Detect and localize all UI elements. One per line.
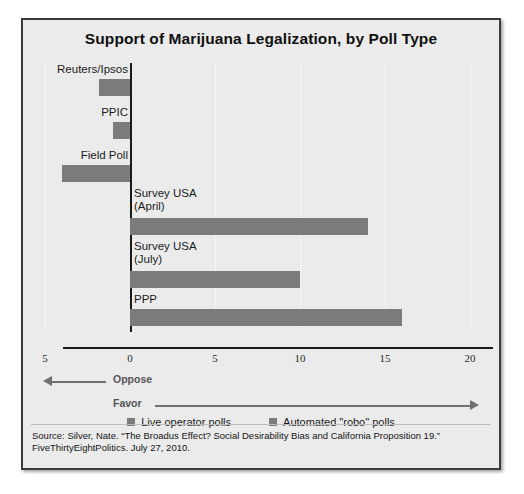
- x-tick-0: 0: [127, 352, 133, 364]
- bar-label-survey-usa-july: Survey USA (July): [134, 240, 274, 266]
- legend-label-robo: Automated "robo" polls: [283, 416, 395, 428]
- x-tick-minus5: 5: [42, 352, 48, 364]
- bar-survey-usa-april: [130, 218, 368, 235]
- gridline-15: [385, 63, 386, 329]
- chart-figure: Support of Marijuana Legalization, by Po…: [21, 18, 501, 470]
- source-divider: [31, 424, 491, 425]
- source-line-2: FiveThirtyEightPolitics. July 27, 2010.: [32, 442, 492, 454]
- bar-survey-usa-july: [130, 271, 300, 288]
- favor-label: Favor: [113, 397, 142, 409]
- legend-label-live-operator: Live operator polls: [141, 416, 231, 428]
- bar-ppic: [113, 122, 130, 139]
- x-tick-10: 10: [295, 352, 306, 364]
- x-tick-15: 15: [380, 352, 391, 364]
- zero-axis-line: [130, 63, 132, 332]
- favor-annotation: Favor: [23, 399, 499, 413]
- source-line-1: Source: Silver, Nate. “The Broadus Effec…: [32, 430, 492, 442]
- chart-legend: Live operator polls Automated "robo" pol…: [23, 416, 499, 428]
- bar-field-poll: [62, 165, 130, 182]
- legend-item-live-operator: Live operator polls: [127, 416, 231, 428]
- gridline-minus5: [45, 63, 46, 329]
- bar-label-ppp: PPP: [134, 293, 274, 306]
- plot-area: Reuters/Ipsos PPIC Field Poll Survey USA…: [42, 63, 496, 329]
- oppose-annotation: Oppose: [23, 375, 499, 389]
- bar-label-field-poll: Field Poll: [20, 149, 128, 162]
- bar-ppp: [130, 309, 402, 326]
- arrow-right-icon: [470, 400, 479, 410]
- x-axis-line: [63, 347, 493, 349]
- gridline-10: [300, 63, 301, 329]
- favor-arrow-shaft: [155, 405, 470, 407]
- legend-item-robo: Automated "robo" polls: [269, 416, 395, 428]
- page-title: Support of Marijuana Legalization, by Po…: [23, 30, 499, 48]
- x-tick-20: 20: [465, 352, 476, 364]
- oppose-label: Oppose: [113, 373, 152, 385]
- bar-reuters-ipsos: [99, 79, 130, 96]
- x-tick-5: 5: [212, 352, 218, 364]
- source-note: Source: Silver, Nate. “The Broadus Effec…: [32, 430, 492, 454]
- gridline-20: [470, 63, 471, 329]
- oppose-arrow-shaft: [52, 381, 106, 383]
- arrow-left-icon: [43, 376, 52, 386]
- bar-label-ppic: PPIC: [20, 106, 128, 119]
- bar-label-reuters-ipsos: Reuters/Ipsos: [20, 63, 128, 76]
- bar-label-survey-usa-april: Survey USA (April): [134, 187, 274, 213]
